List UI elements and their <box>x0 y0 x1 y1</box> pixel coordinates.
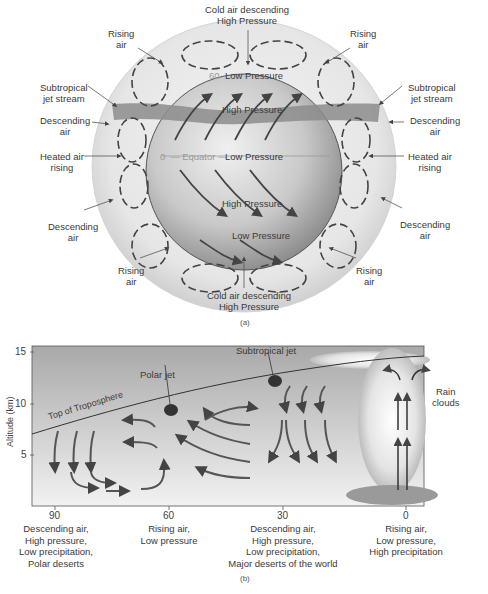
right-label-descending-air-upper: Descending air <box>410 115 460 137</box>
rain-clouds-label: Rain clouds <box>432 386 459 408</box>
y-tick-10: 10 <box>15 398 26 409</box>
top-label: Cold air descending High Pressure <box>205 4 289 26</box>
y-tick-5: 5 <box>21 449 27 460</box>
left-label-descending-air-lower: Descending air <box>48 221 98 243</box>
right-label-rising-air-top: Rising air <box>350 28 376 50</box>
left-label-rising-air-top: Rising air <box>108 28 134 50</box>
right-label-subtropical-jet: Subtropical jet stream <box>408 82 456 104</box>
caption-b: (b) <box>240 574 250 583</box>
globe-low-pressure-top: Low Pressure <box>225 70 283 81</box>
left-label-descending-air-upper: Descending air <box>40 115 90 137</box>
y-axis-label: Altitude (km) <box>5 396 15 447</box>
x-tick-90: 90 <box>49 510 60 521</box>
globe-high-pressure-top: High Pressure <box>222 104 282 115</box>
x-tick-0: 0 <box>403 510 409 521</box>
globe-equator-label: — Equator — <box>170 151 228 162</box>
description-lat-0: Rising air, Low pressure, High precipita… <box>369 523 442 558</box>
right-label-rising-air-bottom: Rising air <box>356 265 382 287</box>
description-lat-90: Descending air, High pressure, Low preci… <box>19 523 93 569</box>
right-label-descending-air-lower: Descending air <box>400 219 450 241</box>
globe-low-pressure-equator: Low Pressure <box>225 151 283 162</box>
description-lat-60: Rising air, Low pressure <box>140 523 197 546</box>
globe-lat-60: 60 <box>209 70 220 81</box>
rain-cloud-shape <box>310 348 438 505</box>
right-label-heated-air-rising: Heated air rising <box>408 151 452 173</box>
polar-jet-label: Polar jet <box>140 369 175 380</box>
left-label-subtropical-jet: Subtropical jet stream <box>40 82 88 104</box>
x-tick-30: 30 <box>277 510 288 521</box>
y-tick-15: 15 <box>15 346 26 357</box>
globe-high-pressure-bottom: High Pressure <box>222 198 282 209</box>
globe-low-pressure-bottom: Low Pressure <box>232 230 290 241</box>
troposphere-label: Top of Troposphere <box>47 389 124 422</box>
caption-a: (a) <box>240 318 250 327</box>
globe-lat-0: 0 <box>160 151 165 162</box>
subtropical-jet-label: Subtropical jet <box>236 345 296 356</box>
left-label-rising-air-bottom: Rising air <box>118 265 144 287</box>
bottom-label: Cold air descending High Pressure <box>207 290 291 312</box>
x-tick-60: 60 <box>163 510 174 521</box>
left-label-heated-air-rising: Heated air rising <box>40 151 84 173</box>
description-lat-30: Descending air, High pressure, Low preci… <box>228 523 337 569</box>
